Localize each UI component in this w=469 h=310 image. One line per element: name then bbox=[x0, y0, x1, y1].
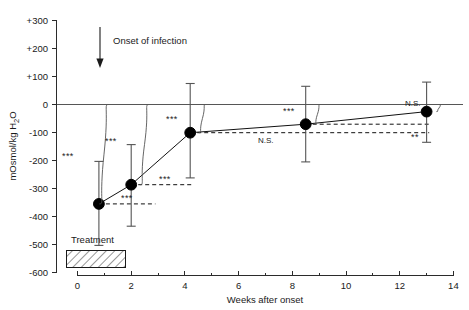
onset-arrow-label: Onset of infection bbox=[113, 35, 187, 46]
significance-label-brace-1: *** bbox=[105, 136, 117, 146]
data-point bbox=[300, 119, 311, 130]
data-point-markers bbox=[94, 106, 433, 209]
significance-label-brace-3: *** bbox=[283, 106, 295, 116]
x-tick-label: 2 bbox=[129, 280, 134, 291]
data-point bbox=[126, 179, 137, 190]
brace-vertical-4 bbox=[436, 105, 441, 112]
y-axis: +300 +200 +100 0 -100 -200 -300 -400 -50… bbox=[7, 15, 57, 278]
x-tick-label: 0 bbox=[75, 280, 80, 291]
osmolality-line-chart: +300 +200 +100 0 -100 -200 -300 -400 -50… bbox=[0, 0, 469, 310]
y-tick-label: 0 bbox=[43, 99, 48, 110]
significance-label-brace-4: N.S. bbox=[405, 99, 421, 108]
chart-figure: +300 +200 +100 0 -100 -200 -300 -400 -50… bbox=[0, 0, 469, 310]
y-axis-title-main: mOsmol/kg H bbox=[7, 123, 18, 181]
x-tick-label: 14 bbox=[448, 280, 459, 291]
significance-label-dash-3: ** bbox=[411, 132, 419, 142]
x-tick-label: 4 bbox=[182, 280, 187, 291]
y-tick-label: -100 bbox=[29, 127, 48, 138]
y-axis-title: mOsmol/kg H2O bbox=[7, 111, 21, 180]
brace-vertical-3 bbox=[314, 105, 320, 125]
y-tick-label: -200 bbox=[29, 155, 48, 166]
significance-labels: *** *** *** *** N.S. *** *** N.S. ** bbox=[62, 99, 421, 203]
x-tick-label: 10 bbox=[341, 280, 352, 291]
brace-vertical-2 bbox=[199, 105, 206, 133]
y-tick-label: +300 bbox=[27, 15, 48, 26]
onset-arrow bbox=[96, 27, 103, 68]
y-tick-label: +200 bbox=[27, 43, 48, 54]
x-tick-label: 6 bbox=[236, 280, 241, 291]
svg-text:mOsmol/kg H2O: mOsmol/kg H2O bbox=[7, 111, 21, 180]
y-tick-label: -500 bbox=[29, 239, 48, 250]
y-tick-label: -400 bbox=[29, 211, 48, 222]
error-bars bbox=[94, 82, 431, 245]
data-point bbox=[185, 127, 196, 138]
series-line bbox=[99, 112, 427, 204]
significance-label-dash-0: *** bbox=[121, 193, 133, 203]
data-point bbox=[94, 199, 105, 210]
x-tick-label: 8 bbox=[290, 280, 295, 291]
y-tick-label: -300 bbox=[29, 183, 48, 194]
significance-label-brace-0: *** bbox=[62, 151, 74, 161]
x-tick-label: 12 bbox=[394, 280, 405, 291]
x-axis-title: Weeks after onset bbox=[227, 294, 304, 305]
plot-area bbox=[94, 82, 442, 245]
x-axis-tick-labels: 0 2 4 6 8 10 12 14 bbox=[75, 280, 459, 291]
data-point bbox=[421, 106, 432, 117]
significance-label-dash-2: N.S. bbox=[258, 136, 274, 145]
significance-label-brace-2: *** bbox=[166, 114, 178, 124]
y-axis-title-tail: O bbox=[7, 111, 18, 118]
significance-label-dash-1: *** bbox=[159, 174, 171, 184]
treatment-label: Treatment bbox=[71, 234, 114, 245]
y-tick-label: +100 bbox=[27, 71, 48, 82]
y-axis-tick-labels: +300 +200 +100 0 -100 -200 -300 -400 -50… bbox=[27, 15, 48, 278]
significance-braces bbox=[100, 105, 442, 204]
y-axis-ticks bbox=[52, 20, 57, 272]
y-tick-label: -600 bbox=[29, 267, 48, 278]
treatment-band bbox=[67, 251, 126, 268]
x-axis: 0 2 4 6 8 10 12 14 Weeks after onset bbox=[75, 271, 459, 306]
brace-vertical-0 bbox=[100, 105, 109, 204]
